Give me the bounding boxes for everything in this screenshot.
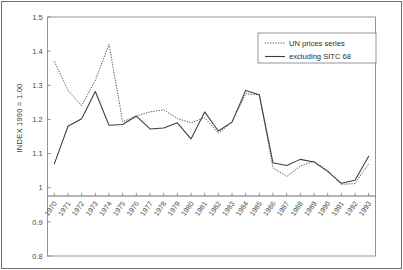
x-tick-label: 1990 bbox=[316, 199, 333, 217]
x-tick-label: 1977 bbox=[138, 199, 155, 217]
y-axis-title-text: INDEX 1990 = 1.00 bbox=[15, 83, 24, 152]
x-tick-label: 1975 bbox=[111, 199, 128, 217]
y-axis-title: INDEX 1990 = 1.00 bbox=[15, 83, 24, 152]
x-tick-label: 1987 bbox=[275, 199, 292, 217]
x-tick-label: 1993 bbox=[357, 199, 374, 217]
y-tick-label: 1.1 bbox=[32, 149, 42, 158]
y-tick-label: 0.9 bbox=[32, 218, 42, 227]
y-tick-label: 1.4 bbox=[32, 47, 42, 56]
series-line-2 bbox=[54, 90, 368, 183]
legend-label-1: UN prices series bbox=[289, 39, 345, 48]
y-axis-labels: 1.51.41.31.21.110.90.8 bbox=[32, 13, 42, 261]
y-tick-label: 1.3 bbox=[32, 81, 42, 90]
line-chart: 1970197119721973197419751976197719781979… bbox=[0, 0, 403, 270]
legend-label-2: excluding SITC 68 bbox=[289, 52, 351, 61]
y-tick-label: 1 bbox=[38, 183, 42, 192]
chart-legend[interactable]: UN prices seriesexcluding SITC 68 bbox=[258, 33, 376, 63]
x-tick-label: 1984 bbox=[234, 199, 251, 217]
y-tick-label: 1.5 bbox=[32, 13, 42, 22]
y-axis-ticks bbox=[48, 17, 51, 256]
x-tick-label: 1988 bbox=[288, 199, 305, 217]
data-series-layer bbox=[54, 44, 368, 184]
x-tick-label: 1978 bbox=[152, 199, 169, 217]
series-line-1 bbox=[54, 44, 368, 184]
x-tick-label: 1986 bbox=[261, 199, 278, 217]
x-axis-labels: 1970197119721973197419751976197719781979… bbox=[42, 199, 373, 217]
x-tick-label: 1981 bbox=[193, 199, 210, 217]
chart-container: 1970197119721973197419751976197719781979… bbox=[0, 0, 403, 270]
x-tick-label: 1973 bbox=[83, 199, 100, 217]
x-tick-label: 1985 bbox=[247, 199, 264, 217]
x-tick-label: 1976 bbox=[124, 199, 141, 217]
x-tick-label: 1991 bbox=[329, 199, 346, 217]
y-tick-label: 0.8 bbox=[32, 252, 42, 261]
x-tick-label: 1982 bbox=[206, 199, 223, 217]
y-tick-label: 1.2 bbox=[32, 115, 42, 124]
x-tick-label: 1979 bbox=[165, 199, 182, 217]
x-tick-label: 1989 bbox=[302, 199, 319, 217]
x-tick-label: 1992 bbox=[343, 199, 360, 217]
x-tick-label: 1972 bbox=[70, 199, 87, 217]
x-tick-label: 1980 bbox=[179, 199, 196, 217]
x-tick-label: 1974 bbox=[97, 199, 114, 217]
x-tick-label: 1970 bbox=[42, 199, 59, 217]
x-tick-label: 1971 bbox=[56, 199, 73, 217]
x-tick-label: 1983 bbox=[220, 199, 237, 217]
